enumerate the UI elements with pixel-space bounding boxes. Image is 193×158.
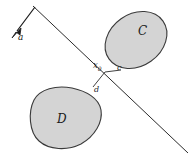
normal-vector-arrow [12,7,35,38]
label-set-d: D [57,113,67,125]
label-point-d: d [94,86,99,94]
convex-set-c-shape [94,0,178,80]
separating-hyperplane-figure: C D c d x0 a [0,0,193,158]
label-set-c: C [138,25,147,37]
label-x0-subscript: 0 [98,65,102,72]
normal-vector-shaft [17,7,35,31]
figure-canvas [0,0,193,158]
label-point-c: c [117,64,121,72]
label-normal-vector-a: a [18,33,23,42]
label-point-x0: x0 [93,61,102,72]
